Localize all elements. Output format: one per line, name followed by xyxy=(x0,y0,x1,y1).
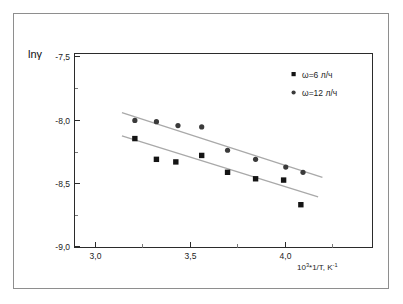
data-point xyxy=(132,118,137,123)
data-point xyxy=(283,165,288,170)
y-tick-label-1: -8,0 xyxy=(55,116,70,126)
y-axis-title: lnγ xyxy=(28,48,43,60)
data-point xyxy=(154,157,159,162)
legend-marker-circle xyxy=(292,90,296,94)
x-tick-label-0: 3,0 xyxy=(90,251,102,261)
data-point xyxy=(225,148,230,153)
x-axis-title-rest: *1/T, K xyxy=(309,263,333,272)
data-point xyxy=(225,170,230,175)
trend-lines xyxy=(122,113,322,197)
x-tick-label-1: 3,5 xyxy=(185,251,197,261)
data-point xyxy=(199,153,204,158)
y-tick-label-2: -8,5 xyxy=(55,179,70,189)
y-tick-label-3: -9,0 xyxy=(55,242,70,252)
figure-container: -7,5 -8,0 -8,5 -9,0 3,0 3,5 4,0 lnγ 103*… xyxy=(0,0,403,304)
data-point xyxy=(253,157,258,162)
x-axis-ticks xyxy=(96,242,333,248)
legend-label-series-0: ω=6 л/ч xyxy=(302,70,332,80)
y-axis-ticks xyxy=(75,57,81,247)
legend-label-series-1: ω=12 л/ч xyxy=(302,88,337,98)
legend-marker-square xyxy=(292,72,296,76)
data-point xyxy=(154,119,159,124)
data-point xyxy=(300,170,305,175)
x-tick-label-2: 4,0 xyxy=(280,251,292,261)
data-point xyxy=(199,124,204,129)
y-tick-label-0: -7,5 xyxy=(55,52,70,62)
data-point xyxy=(132,136,137,141)
x-axis-title-exponent2: -1 xyxy=(333,262,338,268)
data-point xyxy=(175,123,180,128)
chart-canvas: -7,5 -8,0 -8,5 -9,0 3,0 3,5 4,0 lnγ 103*… xyxy=(0,0,403,304)
data-point xyxy=(281,177,286,182)
axis-lines xyxy=(75,53,373,248)
data-point xyxy=(253,176,258,181)
legend: ω=6 л/ч ω=12 л/ч xyxy=(292,70,338,98)
data-point xyxy=(173,159,178,164)
x-axis-title: 103*1/T, K-1 xyxy=(297,262,338,273)
data-point xyxy=(298,202,303,207)
